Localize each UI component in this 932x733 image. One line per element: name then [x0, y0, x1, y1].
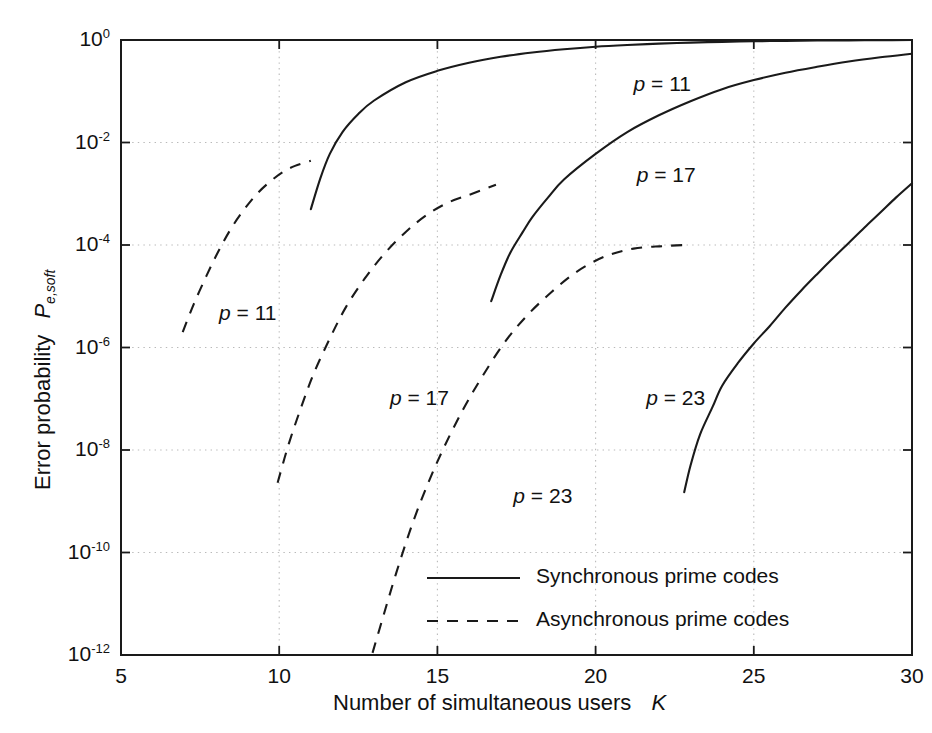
y-tick-mantissa: 10	[75, 232, 98, 255]
legend-sample-lines	[427, 578, 520, 621]
x-tick-label: 30	[882, 664, 932, 688]
curve-label: p = 11	[219, 301, 276, 325]
curve-label: p = 11	[634, 72, 691, 96]
y-tick-label: 10-2	[20, 129, 110, 154]
curve-label: p = 23	[646, 386, 705, 410]
x-tick-label: 10	[249, 664, 309, 688]
y-tick-exponent: -10	[91, 539, 110, 554]
y-tick-label: 10-12	[20, 641, 110, 666]
data-curves-group	[183, 40, 912, 653]
curve-label-value: = 17	[402, 386, 449, 409]
curve-label-symbol: p	[390, 386, 402, 409]
curve-label-value: = 23	[658, 386, 705, 409]
y-axis-title-text: Error probability	[30, 335, 55, 490]
curve-label-symbol: p	[513, 484, 525, 507]
curve-label-value: = 11	[645, 72, 691, 95]
data-curve	[491, 54, 912, 302]
curve-label-symbol: p	[646, 386, 658, 409]
legend-label: Asynchronous prime codes	[536, 607, 789, 631]
y-tick-label: 100	[20, 26, 110, 51]
y-tick-exponent: 0	[103, 26, 110, 41]
x-tick-label: 20	[566, 664, 626, 688]
y-tick-exponent: -4	[98, 231, 110, 246]
y-tick-exponent: -6	[98, 334, 110, 349]
curve-label: p = 17	[637, 163, 696, 187]
y-tick-mantissa: 10	[75, 437, 98, 460]
curve-label-symbol: p	[219, 301, 231, 324]
y-tick-mantissa: 10	[68, 540, 91, 563]
y-tick-exponent: -12	[91, 641, 110, 656]
data-curve	[684, 183, 912, 492]
y-tick-exponent: -8	[98, 436, 110, 451]
legend-label: Synchronous prime codes	[536, 564, 779, 588]
y-tick-label: 10-10	[20, 539, 110, 564]
chart-canvas	[0, 0, 932, 733]
y-tick-mantissa: 10	[75, 130, 98, 153]
x-tick-label: 25	[724, 664, 784, 688]
gridlines-group	[121, 40, 912, 655]
curve-label-symbol: p	[637, 163, 649, 186]
curve-label: p = 17	[390, 386, 449, 410]
x-tick-label: 5	[91, 664, 151, 688]
curve-label-value: = 17	[648, 163, 695, 186]
y-axis-title-symbol: P	[30, 304, 55, 319]
y-tick-mantissa: 10	[79, 27, 102, 50]
y-tick-mantissa: 10	[75, 335, 98, 358]
y-tick-exponent: -2	[98, 129, 110, 144]
x-axis-title-symbol: K	[651, 690, 666, 715]
curve-label-value: = 11	[231, 301, 277, 324]
y-axis-title-subscript: e,soft	[42, 270, 58, 304]
data-curve	[373, 245, 686, 653]
y-tick-label: 10-4	[20, 231, 110, 256]
x-tick-label: 15	[407, 664, 467, 688]
curve-label: p = 23	[513, 484, 572, 508]
x-axis-title-text: Number of simultaneous users	[333, 690, 631, 715]
figure-container: 10010-210-410-610-810-1010-12 5101520253…	[0, 0, 932, 733]
y-axis-title: Error probability Pe,soft	[30, 270, 58, 490]
curve-label-value: = 23	[525, 484, 572, 507]
y-tick-mantissa: 10	[68, 642, 91, 665]
x-axis-title: Number of simultaneous users K	[333, 690, 666, 716]
data-curve	[278, 185, 496, 483]
curve-label-symbol: p	[634, 72, 646, 95]
